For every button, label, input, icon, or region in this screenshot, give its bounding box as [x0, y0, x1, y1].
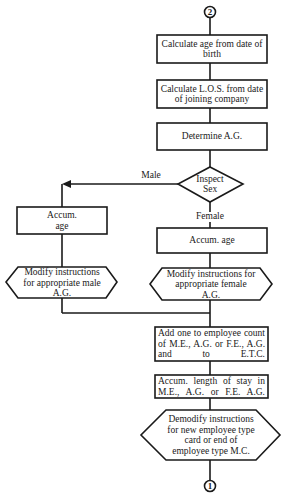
node-female-modify: Modify instructions for appropriate fema…	[166, 269, 256, 300]
node-male-accum-age: Accum. age	[40, 208, 84, 233]
node-add-count: Add one to employee count of M.E., A.G. …	[158, 328, 265, 360]
node-accum-length: Accum. length of stay in M.E., A.G. or F…	[158, 376, 265, 397]
node-demodify: Demodify instructions for new employee t…	[166, 410, 256, 460]
edge-label-male: Male	[136, 170, 166, 181]
connector-top-label: 2	[204, 7, 216, 17]
edge-label-female: Female	[190, 211, 230, 222]
node-male-modify: Modify instructions for appropriate male…	[20, 268, 104, 298]
node-calc-age: Calculate age from date of birth	[160, 36, 264, 62]
node-determine-ag: Determine A.G.	[160, 124, 264, 149]
connector-bottom-label: 1	[204, 481, 216, 491]
node-female-accum-age: Accum. age	[160, 229, 264, 252]
node-inspect-sex: Inspect Sex	[190, 172, 230, 196]
node-calc-los: Calculate L.O.S. from date of joining co…	[158, 81, 266, 107]
